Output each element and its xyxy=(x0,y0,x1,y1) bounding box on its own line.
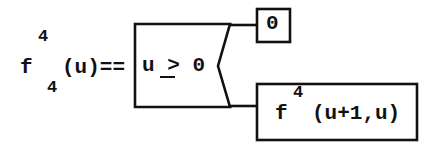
recursive-function-arguments: (u+1,u) xyxy=(312,103,400,124)
condition-text: u > 0 xyxy=(142,55,205,76)
lhs-function-subscript: 4 xyxy=(47,79,57,96)
recursive-function-name: f xyxy=(275,103,288,124)
lhs-function-superscript: 4 xyxy=(38,28,48,45)
lhs-function-name: f xyxy=(20,57,33,78)
greater-or-equal-underbar-icon xyxy=(160,76,175,78)
lhs-arguments-and-operator: (u)== xyxy=(62,57,125,78)
recursive-function-superscript: 4 xyxy=(293,84,303,101)
diagram-artwork xyxy=(0,0,438,158)
zero-box-text: 0 xyxy=(266,13,279,34)
diagram-canvas: f 4 4 (u)== u > 0 0 f 4 (u+1,u) xyxy=(0,0,438,158)
